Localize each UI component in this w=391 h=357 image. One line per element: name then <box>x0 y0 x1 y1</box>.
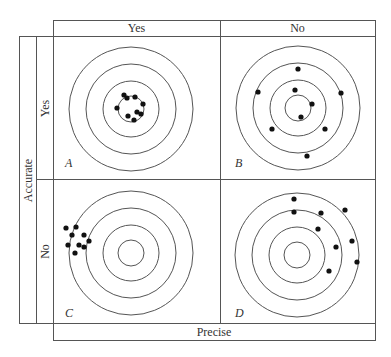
shot-dot <box>291 196 296 201</box>
shot-dot <box>131 117 136 122</box>
target-ring <box>103 225 159 281</box>
grid-frame <box>0 0 391 357</box>
shot-dot <box>81 232 86 237</box>
target-ring <box>270 80 326 136</box>
shot-dot <box>354 259 359 264</box>
shot-dot <box>69 232 74 237</box>
target-d <box>235 193 360 317</box>
shot-dot <box>349 238 354 243</box>
accurate-axis-label: Accurate <box>20 141 37 221</box>
target-a <box>69 47 193 171</box>
shot-dot <box>326 268 331 273</box>
target-ring <box>235 193 359 317</box>
shot-dot <box>318 210 323 215</box>
shot-dot <box>315 226 320 231</box>
shot-dot <box>140 101 145 106</box>
shot-dot <box>322 126 327 131</box>
target-ring <box>118 96 144 122</box>
target-ring <box>86 208 176 298</box>
quadrant-label-c: C <box>65 306 73 321</box>
shot-dot <box>65 242 70 247</box>
target-ring <box>69 47 193 171</box>
shot-dot <box>86 238 91 243</box>
shot-dot <box>72 250 77 255</box>
row-header-no: No <box>37 222 54 282</box>
shot-dot <box>333 244 338 249</box>
shot-dot <box>132 94 137 99</box>
target-ring <box>69 191 193 315</box>
shot-dot <box>63 225 68 230</box>
target-ring <box>269 227 325 283</box>
quadrant-label-b: B <box>235 156 242 171</box>
quadrant-label-a: A <box>65 156 72 171</box>
shot-dot <box>292 87 297 92</box>
shot-dot <box>342 207 347 212</box>
shot-dot <box>291 209 296 214</box>
quadrant-label-d: D <box>235 306 244 321</box>
shot-dot <box>269 126 274 131</box>
shot-dot <box>73 224 78 229</box>
target-ring <box>103 81 159 137</box>
target-b <box>236 46 360 170</box>
shot-dot <box>76 242 81 247</box>
target-ring <box>285 95 311 121</box>
shot-dot <box>309 101 314 106</box>
target-ring <box>236 46 360 170</box>
target-ring <box>252 210 342 300</box>
shot-dot <box>138 111 143 116</box>
target-ring <box>86 64 176 154</box>
shot-dot <box>81 244 86 249</box>
shot-dot <box>295 66 300 71</box>
column-header-no: No <box>220 21 375 36</box>
target-ring <box>253 63 343 153</box>
shot-dot <box>338 90 343 95</box>
shot-dot <box>298 114 303 119</box>
shot-dot <box>124 95 129 100</box>
shot-dot <box>125 113 130 118</box>
shot-dot <box>304 153 309 158</box>
row-header-yes: Yes <box>37 79 54 139</box>
shot-dot <box>255 89 260 94</box>
target-c <box>63 191 193 315</box>
column-header-yes: Yes <box>53 21 220 36</box>
target-ring <box>118 240 144 266</box>
precise-axis-label: Precise <box>53 324 375 340</box>
target-ring <box>284 242 310 268</box>
shot-dot <box>114 105 119 110</box>
